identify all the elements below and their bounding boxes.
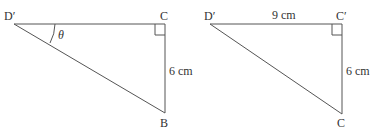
label-d-prime-right: D′ xyxy=(204,9,216,23)
right-angle-marker-left xyxy=(155,24,165,35)
label-d-prime-left: D′ xyxy=(4,9,16,23)
label-b: B xyxy=(160,116,168,130)
label-side-9cm: 9 cm xyxy=(272,8,296,22)
label-c-left: C xyxy=(160,9,168,23)
label-c-right: C xyxy=(337,116,345,130)
triangles-diagram: D′ C B 6 cm θ D′ C′ C 9 cm 6 cm xyxy=(0,0,379,133)
left-triangle: D′ C B 6 cm θ xyxy=(4,9,193,130)
label-theta: θ xyxy=(58,28,64,42)
label-side-6cm-right: 6 cm xyxy=(346,64,370,78)
label-c-prime: C′ xyxy=(336,9,347,23)
left-triangle-shape xyxy=(14,24,165,113)
right-angle-marker-right xyxy=(332,24,342,35)
angle-arc-theta xyxy=(50,24,55,43)
label-side-6cm-left: 6 cm xyxy=(169,64,193,78)
right-triangle: D′ C′ C 9 cm 6 cm xyxy=(204,8,370,130)
right-triangle-shape xyxy=(210,24,342,114)
